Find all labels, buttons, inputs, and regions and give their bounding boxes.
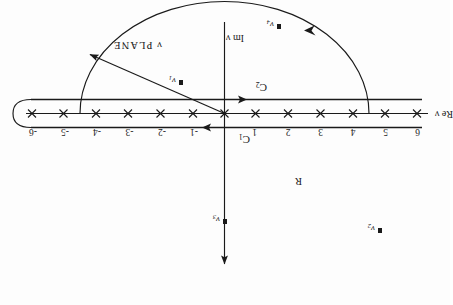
pole-label-nu1: ν1 — [169, 75, 176, 85]
pole-marker-nu4 — [277, 24, 281, 29]
tick-label-neg3: -3 — [125, 127, 133, 137]
radius-line — [90, 55, 225, 114]
contour-c2-label: C2 — [256, 80, 267, 93]
tick-label-neg2: -2 — [158, 127, 166, 137]
semicircle-arrowhead — [304, 26, 316, 36]
plane-label: ν PLANE — [113, 40, 162, 51]
pole-marker-nu3 — [223, 219, 227, 224]
tick-label-neg5: -5 — [61, 127, 69, 137]
tick-label-6: 6 — [415, 127, 420, 137]
tick-label-neg6: -6 — [29, 127, 37, 137]
pole-label-nu4: ν4 — [267, 19, 274, 29]
tick-label-neg1: -1 — [190, 127, 198, 137]
tick-label-4: 4 — [351, 127, 356, 137]
pole-label-nu3: ν3 — [213, 214, 220, 224]
imaginary-axis-label: Im ν — [226, 33, 244, 43]
tick-label-neg4: -4 — [93, 127, 101, 137]
tick-label-1: 1 — [252, 127, 257, 137]
radius-label: R — [295, 176, 302, 187]
tick-label-5: 5 — [383, 127, 388, 137]
pole-marker-nu2 — [378, 228, 382, 233]
real-axis-label: Re ν — [435, 109, 453, 119]
pole-marker-nu1 — [179, 80, 183, 85]
pole-label-nu2: ν2 — [368, 223, 375, 233]
tick-label-2: 2 — [286, 127, 291, 137]
contour-c1-label: C1 — [239, 132, 250, 145]
tick-label-3: 3 — [318, 127, 323, 137]
